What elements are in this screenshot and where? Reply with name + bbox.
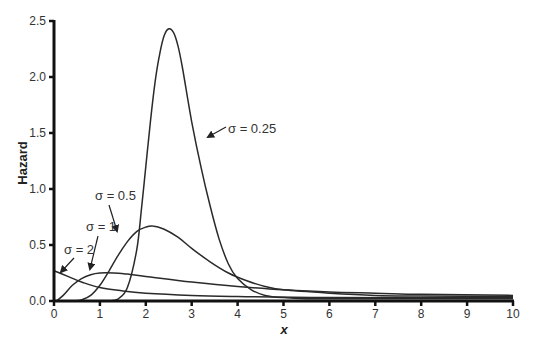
x-tick-label: 5 bbox=[280, 307, 287, 321]
x-tick-label: 4 bbox=[234, 307, 241, 321]
annotation-sigma-1: σ = 1 bbox=[86, 219, 116, 234]
curves bbox=[54, 29, 513, 301]
y-axis-title: Hazard bbox=[15, 141, 30, 184]
hazard-curve-0.25 bbox=[109, 29, 513, 301]
x-tick-label: 9 bbox=[464, 307, 471, 321]
x-tick-label: 6 bbox=[326, 307, 333, 321]
y-tick-label: 2.5 bbox=[29, 14, 46, 28]
annotation-sigma-0.5: σ = 0.5 bbox=[95, 188, 136, 203]
annotation-sigma-2: σ = 2 bbox=[64, 242, 94, 257]
x-tick-label: 7 bbox=[372, 307, 379, 321]
y-tick-label: 0.5 bbox=[29, 238, 46, 252]
x-tick-label: 0 bbox=[51, 307, 58, 321]
hazard-chart: 0.00.51.01.52.02.5 012345678910 Hazard x… bbox=[0, 0, 535, 343]
x-tick-label: 10 bbox=[506, 307, 520, 321]
x-tick-label: 3 bbox=[188, 307, 195, 321]
y-tick-label: 2.0 bbox=[29, 70, 46, 84]
x-tick-label: 1 bbox=[97, 307, 104, 321]
annotations: σ = 0.25 σ = 0.5 σ = 1 σ = 2 bbox=[61, 121, 276, 272]
arrow-icon bbox=[61, 258, 74, 272]
x-axis-title: x bbox=[279, 322, 288, 337]
y-tick-label: 1.0 bbox=[29, 182, 46, 196]
annotation-sigma-0.25: σ = 0.25 bbox=[228, 121, 276, 136]
x-axis-ticks: 012345678910 bbox=[51, 301, 520, 321]
y-tick-label: 0.0 bbox=[29, 294, 46, 308]
arrow-icon bbox=[208, 127, 226, 137]
x-tick-label: 8 bbox=[418, 307, 425, 321]
x-tick-label: 2 bbox=[142, 307, 149, 321]
hazard-curve-2 bbox=[54, 271, 513, 298]
y-tick-label: 1.5 bbox=[29, 126, 46, 140]
y-axis-ticks: 0.00.51.01.52.02.5 bbox=[29, 14, 54, 308]
